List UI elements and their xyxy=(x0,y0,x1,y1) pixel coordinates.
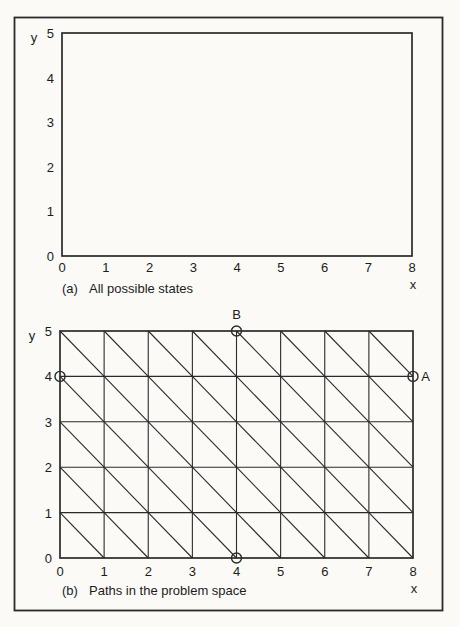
cell-diagonal xyxy=(148,513,192,558)
cell-diagonal xyxy=(192,513,236,558)
cell-diagonal xyxy=(104,422,148,467)
marker-label-a: A xyxy=(421,370,430,383)
cell-diagonal xyxy=(281,422,325,467)
cell-diagonal xyxy=(325,376,369,421)
x-tick-label: 5 xyxy=(277,261,284,274)
cell-diagonal xyxy=(237,422,281,467)
x-tick-label: 2 xyxy=(146,261,153,274)
y-tick-label: 0 xyxy=(47,250,54,263)
y-tick-label: 5 xyxy=(47,27,54,40)
panel-b-caption-label: (b) xyxy=(62,584,78,597)
x-tick-label: 4 xyxy=(233,261,240,274)
cell-diagonal xyxy=(369,331,413,376)
cell-diagonal xyxy=(192,331,236,376)
x-tick-label: 3 xyxy=(189,565,196,578)
panel-a-border xyxy=(62,33,412,256)
cell-diagonal xyxy=(104,467,148,512)
figure-svg xyxy=(0,0,460,627)
cell-diagonal xyxy=(104,513,148,558)
x-tick-label: 8 xyxy=(408,261,415,274)
cell-diagonal xyxy=(148,331,192,376)
cell-diagonal xyxy=(60,513,104,558)
y-tick-label: 4 xyxy=(47,71,54,84)
y-tick-label: 5 xyxy=(45,325,52,338)
cell-diagonal xyxy=(281,376,325,421)
cell-diagonal xyxy=(237,513,281,558)
cell-diagonal xyxy=(148,376,192,421)
panel-a-caption-text: All possible states xyxy=(89,282,193,295)
cell-diagonal xyxy=(60,422,104,467)
cell-diagonal xyxy=(60,376,104,421)
y-tick-label: 0 xyxy=(45,552,52,565)
cell-diagonal xyxy=(104,376,148,421)
cell-diagonal xyxy=(369,513,413,558)
cell-diagonal xyxy=(325,422,369,467)
x-tick-label: 7 xyxy=(365,261,372,274)
cell-diagonal xyxy=(237,376,281,421)
cell-diagonal xyxy=(325,513,369,558)
x-tick-label: 0 xyxy=(56,565,63,578)
page: y x (a) All possible states y x (b) Path… xyxy=(0,0,460,627)
panel-b-y-axis-letter: y xyxy=(29,329,36,342)
cell-diagonal xyxy=(281,331,325,376)
cell-diagonal xyxy=(281,513,325,558)
x-tick-label: 8 xyxy=(409,565,416,578)
cell-diagonal xyxy=(60,467,104,512)
x-tick-label: 0 xyxy=(58,261,65,274)
y-tick-label: 2 xyxy=(45,461,52,474)
x-tick-label: 6 xyxy=(321,565,328,578)
cell-diagonal xyxy=(325,467,369,512)
cell-diagonal xyxy=(192,422,236,467)
x-tick-label: 3 xyxy=(190,261,197,274)
cell-diagonal xyxy=(369,467,413,512)
panel-b-caption-text: Paths in the problem space xyxy=(89,584,247,597)
panel-b-x-axis-letter: x xyxy=(411,582,418,595)
y-tick-label: 3 xyxy=(45,415,52,428)
cell-diagonal xyxy=(325,331,369,376)
cell-diagonal xyxy=(369,422,413,467)
y-tick-label: 3 xyxy=(47,116,54,129)
cell-diagonal xyxy=(104,331,148,376)
cell-diagonal xyxy=(192,376,236,421)
x-tick-label: 5 xyxy=(277,565,284,578)
cell-diagonal xyxy=(369,376,413,421)
y-tick-label: 1 xyxy=(47,205,54,218)
x-tick-label: 6 xyxy=(321,261,328,274)
cell-diagonal xyxy=(192,467,236,512)
x-tick-label: 4 xyxy=(233,565,240,578)
y-tick-label: 4 xyxy=(45,370,52,383)
cell-diagonal xyxy=(148,467,192,512)
cell-diagonal xyxy=(60,331,104,376)
panel-a-y-axis-letter: y xyxy=(31,31,38,44)
y-tick-label: 2 xyxy=(47,160,54,173)
cell-diagonal xyxy=(237,467,281,512)
y-tick-label: 1 xyxy=(45,506,52,519)
x-tick-label: 7 xyxy=(365,565,372,578)
cell-diagonal xyxy=(148,422,192,467)
panel-a-x-axis-letter: x xyxy=(410,278,417,291)
cell-diagonal xyxy=(281,467,325,512)
panel-a-caption-label: (a) xyxy=(62,282,78,295)
marker-label-b: B xyxy=(232,308,241,321)
x-tick-label: 1 xyxy=(102,261,109,274)
cell-diagonal xyxy=(237,331,281,376)
x-tick-label: 2 xyxy=(145,565,152,578)
x-tick-label: 1 xyxy=(101,565,108,578)
